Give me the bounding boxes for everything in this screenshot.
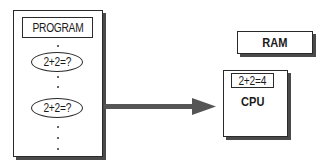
continuation-dot — [57, 148, 59, 150]
program-title-box: PROGRAM — [22, 17, 93, 38]
arrow-right-icon — [104, 96, 218, 116]
continuation-dot — [57, 45, 59, 47]
continuation-dot — [57, 76, 59, 78]
ram-label: RAM — [262, 35, 287, 50]
continuation-dot — [57, 137, 59, 139]
ram-box: RAM — [237, 31, 313, 54]
instruction-ellipse-2: 2+2=? — [31, 98, 83, 118]
instruction-text-1: 2+2=? — [43, 55, 71, 69]
cpu-label-wrap: CPU — [231, 93, 274, 109]
instruction-ellipse-1: 2+2=? — [31, 52, 83, 72]
instruction-text-2: 2+2=? — [43, 101, 71, 115]
cpu-register-value: 2+2=4 — [239, 74, 267, 88]
continuation-dot — [57, 86, 59, 88]
program-title: PROGRAM — [32, 21, 83, 35]
cpu-label: CPU — [241, 94, 264, 109]
cpu-register-box: 2+2=4 — [231, 73, 274, 88]
continuation-dot — [57, 126, 59, 128]
